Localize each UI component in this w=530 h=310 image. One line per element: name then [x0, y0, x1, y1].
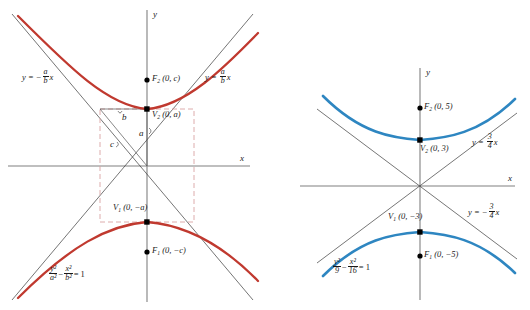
left-eq-operator: − — [58, 269, 63, 279]
left-eq-t2-den: b² — [64, 273, 72, 282]
left-y-axis-label: y — [153, 10, 157, 19]
left-focus-upper-coords: (0, c) — [162, 73, 180, 83]
right-focus-upper-coords: (0, 5) — [434, 101, 452, 111]
right-vertex-lower-coords: (0, −3) — [398, 211, 422, 221]
left-eq-t2-num: x² — [64, 265, 72, 273]
right-vertex-upper-coords: (0, 3) — [430, 143, 448, 153]
left-focus-upper-label: F2 (0, c) — [152, 74, 180, 83]
right-eq-equals: = 1 — [359, 262, 370, 272]
brace-a-icon — [149, 128, 151, 134]
right-y-axis-label: y — [426, 68, 430, 77]
left-asym-pos-rhs: x — [227, 72, 231, 82]
right-equation-label: y²9−x²16= 1 — [332, 258, 370, 276]
segment-c-label: c — [110, 140, 114, 149]
left-vertex-upper-sub: 2 — [157, 114, 160, 120]
right-focus-lower-sub: 1 — [429, 254, 432, 260]
right-asym-neg-den: 4 — [489, 211, 495, 220]
left-asym-neg-rhs: x — [50, 72, 54, 82]
point-vertex-upper — [417, 137, 422, 142]
left-asymptote-negative-label: y = −abx — [22, 68, 53, 86]
point-focus-lower — [417, 253, 422, 258]
left-vertex-upper-coords: (0, a) — [162, 109, 180, 119]
left-asym-pos-num: a — [220, 68, 226, 76]
left-focus-lower-label: F1 (0, −c) — [152, 246, 186, 255]
right-vertex-upper-sub: 2 — [425, 148, 428, 154]
right-eq-operator: − — [342, 262, 347, 272]
right-asym-pos-rhs: x — [494, 137, 498, 147]
right-asymptote-negative-label: y = −34x — [468, 203, 499, 221]
right-focus-lower-label: F1 (0, −5) — [424, 250, 458, 259]
point-focus-upper — [144, 77, 149, 82]
left-asym-pos-lhs: y = — [205, 72, 219, 82]
left-asym-neg-lhs: y = − — [22, 72, 42, 82]
asymptote-negative-line — [317, 109, 517, 259]
hyperbola-lower-branch — [18, 222, 258, 298]
figure-canvas: y x F2 (0, c) V2 (0, a) V1 (0, −a) F1 (0… — [0, 0, 530, 310]
left-asym-pos-den: b — [220, 76, 226, 85]
left-asymptote-positive-label: y = abx — [205, 68, 231, 86]
left-vertex-lower-label: V1 (0, −a) — [113, 203, 147, 212]
segment-a-label: a — [139, 129, 144, 138]
right-x-axis-label: x — [508, 174, 512, 183]
right-asym-neg-rhs: x — [496, 207, 500, 217]
right-focus-upper-sub: 2 — [429, 106, 432, 112]
point-vertex-upper — [144, 106, 149, 111]
left-eq-t1-den: a² — [49, 273, 57, 282]
left-asym-neg-num: a — [43, 68, 49, 76]
right-vertex-upper-label: V2 (0, 3) — [420, 144, 449, 153]
right-asym-pos-lhs: y = — [472, 137, 486, 147]
hyperbola-upper-branch — [18, 16, 258, 109]
point-focus-lower — [144, 249, 149, 254]
left-focus-lower-coords: (0, −c) — [162, 245, 186, 255]
left-focus-lower-sub: 1 — [157, 250, 160, 256]
right-asym-pos-den: 4 — [487, 141, 493, 150]
left-vertex-upper-label: V2 (0, a) — [152, 110, 181, 119]
left-equation-label: y²a²−x²b²= 1 — [48, 265, 85, 283]
left-asym-neg-den: b — [43, 76, 49, 85]
right-panel-graph — [265, 0, 530, 310]
right-eq-t2-num: x² — [348, 258, 358, 266]
left-x-axis-label: x — [240, 154, 244, 163]
brace-c-icon — [116, 142, 118, 147]
point-focus-upper — [417, 105, 422, 110]
right-asym-neg-num: 3 — [489, 203, 495, 211]
right-eq-t2-den: 16 — [348, 266, 358, 275]
right-eq-t1-num: y² — [333, 258, 341, 266]
left-vertex-lower-sub: 1 — [118, 207, 121, 213]
left-eq-t1-num: y² — [49, 265, 57, 273]
left-vertex-lower-coords: (0, −a) — [123, 202, 147, 212]
point-vertex-lower — [417, 229, 422, 234]
right-focus-lower-coords: (0, −5) — [434, 249, 458, 259]
right-asymptote-positive-label: y = 34x — [472, 133, 498, 151]
right-vertex-lower-sub: 1 — [393, 216, 396, 222]
left-panel-graph — [0, 0, 265, 310]
right-asym-neg-lhs: y = − — [468, 207, 488, 217]
right-eq-t1-den: 9 — [333, 266, 341, 275]
right-vertex-lower-label: V1 (0, −3) — [388, 212, 422, 221]
right-asym-pos-num: 3 — [487, 133, 493, 141]
point-vertex-lower — [144, 219, 149, 224]
left-focus-upper-sub: 2 — [157, 78, 160, 84]
segment-b-label: b — [122, 113, 127, 122]
right-focus-upper-label: F2 (0, 5) — [424, 102, 453, 111]
left-eq-equals: = 1 — [74, 269, 85, 279]
